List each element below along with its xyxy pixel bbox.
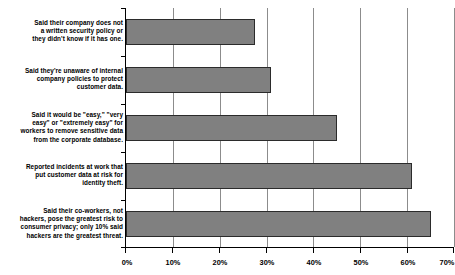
category-label-2: Said it would be "easy," "veryeasy" or "…	[1, 111, 123, 144]
category-label-0: Said their company does nota written sec…	[1, 19, 123, 44]
category-label-4: Said their co-workers, nothackers, pose …	[1, 207, 123, 240]
bar-1	[126, 67, 271, 93]
bar-4	[126, 211, 431, 237]
bar-0	[126, 19, 255, 45]
category-label-column: Said their company does nota written sec…	[0, 0, 125, 248]
x-tick-label-5: 50%	[354, 258, 369, 267]
bar-3	[126, 163, 412, 189]
x-tick-10	[172, 248, 173, 253]
x-tick-0	[125, 248, 126, 253]
x-tick-label-3: 30%	[260, 258, 275, 267]
x-tick-label-6: 60%	[401, 258, 416, 267]
category-label-3: Reported incidents at work thatput custo…	[1, 163, 123, 188]
x-tick-label-1: 10%	[166, 258, 181, 267]
bars-layer	[126, 8, 454, 247]
x-tick-20	[219, 248, 220, 253]
bar-2	[126, 115, 337, 141]
x-tick-50	[360, 248, 361, 253]
x-tick-40	[313, 248, 314, 253]
x-tick-label-4: 40%	[307, 258, 322, 267]
x-tick-label-0: 0%	[122, 258, 133, 267]
category-label-1: Said they're unaware of internalcompany …	[1, 67, 123, 92]
plot-area	[125, 8, 454, 248]
x-tick-30	[266, 248, 267, 253]
x-tick-label-2: 20%	[213, 258, 228, 267]
x-tick-label-7: 70%	[440, 258, 455, 267]
x-tick-60	[407, 248, 408, 253]
x-tick-70	[453, 248, 454, 253]
